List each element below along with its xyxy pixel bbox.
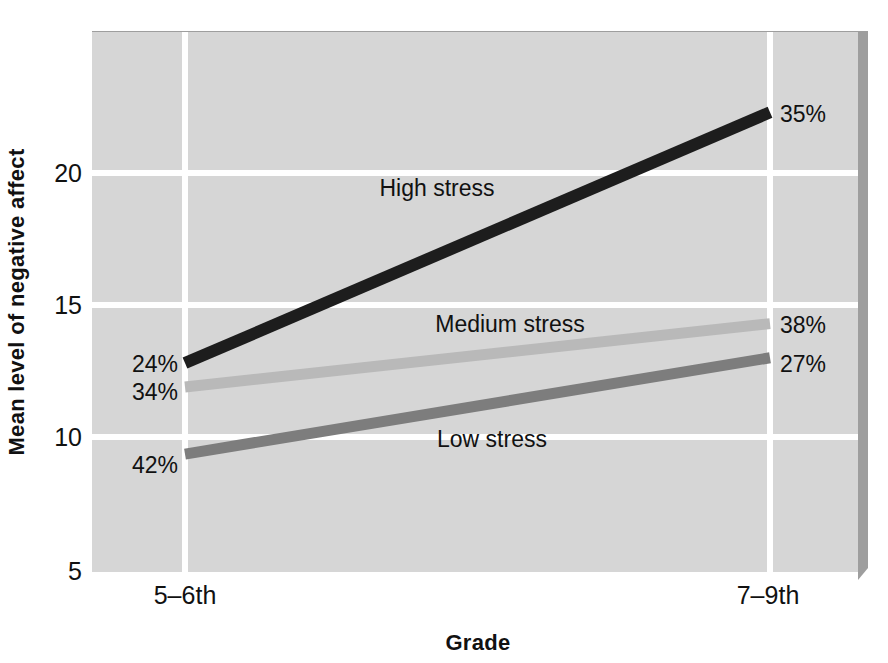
series-label-high-stress: High stress: [379, 175, 494, 201]
y-axis-ticks: 20 15 10 5: [54, 159, 82, 585]
y-axis-title: Mean level of negative affect: [4, 148, 29, 455]
annotation-high-stress-start: 24%: [132, 351, 178, 377]
x-tick-label-7-9th: 7–9th: [737, 581, 800, 609]
series-label-low-stress: Low stress: [437, 426, 547, 452]
y-tick-label-15: 15: [54, 291, 82, 319]
chart-figure: High stress Medium stress Low stress 24%…: [0, 0, 888, 663]
annotation-medium-stress-start: 34%: [132, 379, 178, 405]
x-axis-ticks: 5–6th 7–9th: [154, 581, 800, 609]
x-tick-label-5-6th: 5–6th: [154, 581, 217, 609]
y-tick-label-5: 5: [68, 557, 82, 585]
series-label-medium-stress: Medium stress: [435, 311, 585, 337]
y-tick-label-20: 20: [54, 159, 82, 187]
plot-right-shadow: [858, 31, 868, 580]
annotation-low-stress-end: 27%: [780, 351, 826, 377]
annotation-low-stress-start: 42%: [132, 452, 178, 478]
x-axis-title: Grade: [445, 630, 510, 655]
y-tick-label-10: 10: [54, 423, 82, 451]
annotation-high-stress-end: 35%: [780, 101, 826, 127]
line-chart-svg: High stress Medium stress Low stress 24%…: [0, 0, 888, 663]
annotation-medium-stress-end: 38%: [780, 312, 826, 338]
